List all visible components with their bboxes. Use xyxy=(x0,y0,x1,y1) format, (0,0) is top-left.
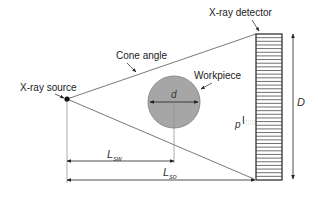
lsw-label: Lsw xyxy=(107,148,123,162)
cone-angle-pointer xyxy=(127,63,136,72)
pixel-pitch-marker: I xyxy=(242,115,245,126)
xray-detector-label: X-ray detector xyxy=(209,7,272,18)
detector-pointer xyxy=(252,20,259,31)
workpiece-label: Workpiece xyxy=(194,70,241,81)
cone-angle-label: Cone angle xyxy=(116,50,168,61)
workpiece-diameter-label: d xyxy=(171,89,177,100)
detector-size-label: D xyxy=(297,96,305,108)
pixel-pitch-label: p xyxy=(234,119,241,130)
ct-geometry-diagram: d X-ray source Cone angle Workpiece X-ra… xyxy=(0,0,318,197)
xray-source-point xyxy=(64,96,69,101)
lso-label: Lso xyxy=(163,166,177,180)
xray-detector xyxy=(256,34,282,180)
workpiece-pointer xyxy=(201,83,212,89)
xray-source-label: X-ray source xyxy=(20,82,77,93)
source-pointer xyxy=(55,94,64,98)
